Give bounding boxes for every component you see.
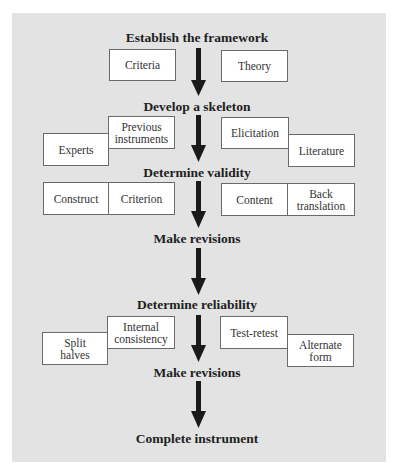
step-determine-reliability: Determine reliability (0, 297, 394, 313)
box-previous-instruments: Previous instruments (108, 116, 175, 149)
box-experts: Experts (43, 133, 109, 166)
box-split-halves: Split halves (42, 332, 108, 365)
down-arrow-icon (190, 381, 207, 431)
box-alternate-form: Alternate form (287, 334, 354, 367)
box-back-translation: Back translation (287, 183, 355, 216)
box-criteria: Criteria (109, 49, 176, 81)
down-arrow-icon (190, 48, 207, 98)
box-criterion: Criterion (108, 182, 175, 215)
box-theory: Theory (221, 50, 288, 82)
box-test-retest: Test-retest (220, 316, 288, 349)
down-arrow-icon (190, 181, 207, 231)
box-internal-consistency: Internal consistency (107, 316, 175, 349)
down-arrow-icon (190, 315, 207, 365)
box-content: Content (221, 183, 288, 216)
box-construct: Construct (43, 182, 109, 215)
down-arrow-icon (190, 248, 207, 298)
step-establish-framework: Establish the framework (0, 30, 394, 46)
step-make-revisions-2: Make revisions (0, 365, 394, 381)
step-determine-validity: Determine validity (0, 165, 394, 181)
down-arrow-icon (190, 115, 207, 165)
box-elicitation: Elicitation (221, 117, 289, 149)
box-literature: Literature (288, 134, 355, 167)
step-make-revisions-1: Make revisions (0, 231, 394, 247)
step-complete-instrument: Complete instrument (0, 431, 394, 447)
step-develop-skeleton: Develop a skeleton (0, 99, 394, 115)
